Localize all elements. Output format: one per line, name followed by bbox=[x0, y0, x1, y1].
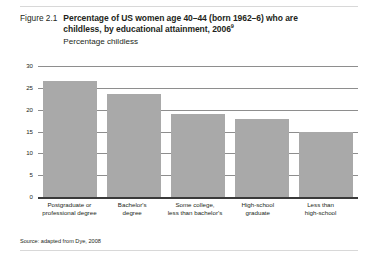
y-axis-tick-label: 25 bbox=[26, 85, 33, 91]
bar-slot bbox=[166, 66, 230, 197]
y-axis-tick-label: 20 bbox=[26, 107, 33, 113]
figure-title: Percentage of US women age 40–44 (born 1… bbox=[63, 13, 360, 34]
bar bbox=[107, 94, 161, 197]
bar bbox=[43, 81, 97, 197]
x-axis-category-label: Less thanhigh-school bbox=[289, 201, 352, 218]
category-label-line: degree bbox=[123, 209, 142, 216]
category-label-line: Postgraduate or bbox=[47, 201, 91, 208]
x-axis-category-labels: Postgraduate orprofessional degreeBachel… bbox=[38, 201, 352, 218]
y-axis-tick-label: 0 bbox=[30, 194, 33, 200]
bars-group bbox=[38, 66, 358, 197]
source-note: Source: adapted from Dye, 2008 bbox=[20, 238, 101, 245]
plot-canvas bbox=[38, 66, 358, 197]
bar bbox=[299, 132, 353, 198]
y-axis-tick-label: 5 bbox=[30, 172, 33, 178]
bar-slot bbox=[294, 66, 358, 197]
category-label-line: professional degree bbox=[42, 209, 96, 216]
bar-slot bbox=[38, 66, 102, 197]
x-axis-category-label: Postgraduate orprofessional degree bbox=[38, 201, 101, 218]
bar bbox=[235, 119, 289, 197]
category-label-line: High-school bbox=[241, 201, 274, 208]
figure-title-line-1: Percentage of US women age 40–44 (born 1… bbox=[63, 13, 297, 23]
category-label-line: Less than bbox=[307, 201, 334, 208]
y-axis-tick-label: 15 bbox=[26, 128, 33, 134]
x-axis-baseline bbox=[38, 197, 358, 199]
figure-number: Figure 2.1 bbox=[20, 13, 63, 24]
category-label-line: Bachelor's bbox=[118, 201, 147, 208]
figure-subtitle: Percentage childless bbox=[63, 36, 360, 47]
top-divider bbox=[20, 6, 358, 7]
figure-header: Figure 2.1 Percentage of US women age 40… bbox=[20, 13, 360, 47]
figure-title-line-2: childless, by educational attainment, 20… bbox=[63, 24, 231, 34]
category-label-line: Some college, bbox=[175, 201, 214, 208]
bottom-divider bbox=[20, 250, 358, 251]
chart-plot-area: 051015202530 bbox=[20, 66, 358, 197]
category-label-line: high-school bbox=[305, 209, 337, 216]
x-axis-category-label: Some college,less than bachelor's bbox=[164, 201, 227, 218]
y-axis-tick-label: 30 bbox=[26, 63, 33, 69]
figure-container: Figure 2.1 Percentage of US women age 40… bbox=[0, 0, 372, 263]
category-label-line: graduate bbox=[246, 209, 270, 216]
x-axis-category-label: High-schoolgraduate bbox=[226, 201, 289, 218]
figure-heading-text: Percentage of US women age 40–44 (born 1… bbox=[63, 13, 360, 47]
bar-slot bbox=[102, 66, 166, 197]
y-axis-tick-label: 10 bbox=[26, 150, 33, 156]
bar bbox=[171, 114, 225, 197]
bar-slot bbox=[230, 66, 294, 197]
y-axis: 051015202530 bbox=[20, 66, 36, 197]
category-label-line: less than bachelor's bbox=[168, 209, 223, 216]
figure-title-footnote-marker: 9 bbox=[231, 23, 234, 29]
x-axis-category-label: Bachelor'sdegree bbox=[101, 201, 164, 218]
